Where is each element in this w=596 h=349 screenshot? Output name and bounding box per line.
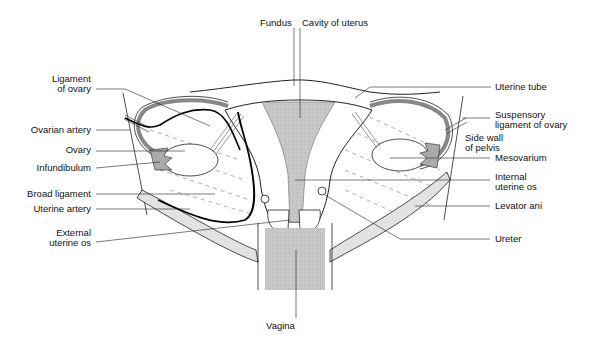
label-vagina: Vagina — [266, 321, 295, 331]
label-levator-ani: Levator ani — [495, 201, 542, 211]
label-infundibulum: Infundibulum — [37, 163, 91, 173]
label-uterine-tube: Uterine tube — [495, 82, 547, 92]
levator-ani-right — [330, 172, 450, 262]
label-ureter: Ureter — [495, 234, 521, 244]
label-ovary: Ovary — [66, 145, 91, 155]
ureter-left — [261, 195, 269, 203]
label-external-uterine-os: External uterine os — [49, 228, 91, 248]
label-broad-ligament: Broad ligament — [27, 189, 91, 199]
levator-ani-left — [137, 190, 258, 262]
ovary-left — [162, 144, 218, 176]
vagina-canal — [265, 228, 325, 290]
label-fundus: Fundus — [260, 18, 292, 28]
ureter-right — [318, 187, 326, 195]
ovary-right — [372, 139, 428, 171]
label-internal-uterine-os: Internal uterine os — [495, 172, 537, 192]
label-cavity-of-uterus: Cavity of uterus — [302, 18, 368, 28]
label-mesovarium: Mesovarium — [495, 153, 547, 163]
label-side-wall-of-pelvis: Side wall of pelvis — [465, 133, 503, 153]
label-suspensory-ligament: Suspensory ligament of ovary — [495, 110, 567, 130]
label-uterine-artery: Uterine artery — [33, 204, 91, 214]
label-ligament-of-ovary: Ligament of ovary — [52, 74, 91, 94]
label-ovarian-artery: Ovarian artery — [31, 125, 91, 135]
